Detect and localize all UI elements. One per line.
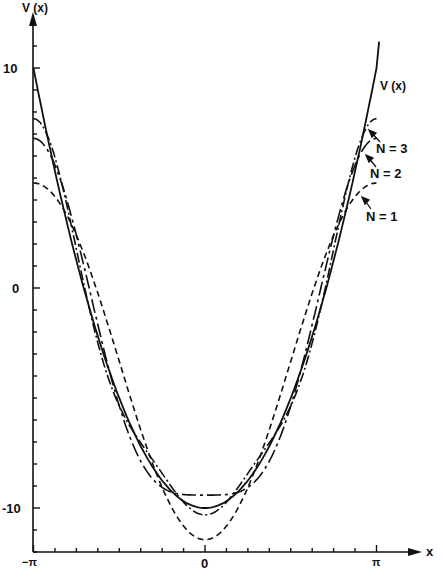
annotation-n1: N = 1 xyxy=(366,209,397,224)
y-tick-label-10: 10 xyxy=(3,61,17,76)
series-n1 xyxy=(34,183,377,540)
annotation-n2: N = 2 xyxy=(370,166,401,181)
fourier-series-chart: V (x) x 10 0 -10 −π 0 π V (x) N = 3 N = … xyxy=(0,0,443,580)
x-tick-label-0: 0 xyxy=(201,556,208,571)
x-ticks xyxy=(34,545,377,552)
x-tick-label-pi: π xyxy=(372,556,381,568)
y-tick-label-neg10: -10 xyxy=(2,501,21,516)
x-axis-label: x xyxy=(426,544,434,559)
annotation-n3: N = 3 xyxy=(376,141,407,156)
y-axis-label: V (x) xyxy=(22,1,48,15)
x-axis-arrow-icon xyxy=(408,548,422,556)
axes xyxy=(33,22,412,552)
series-vx xyxy=(34,42,380,508)
x-tick-label-neg-pi: −π xyxy=(22,556,37,568)
y-tick-label-0: 0 xyxy=(12,281,19,296)
series-n2 xyxy=(34,138,377,495)
annotation-vx: V (x) xyxy=(380,79,406,93)
series-n3 xyxy=(34,119,377,515)
